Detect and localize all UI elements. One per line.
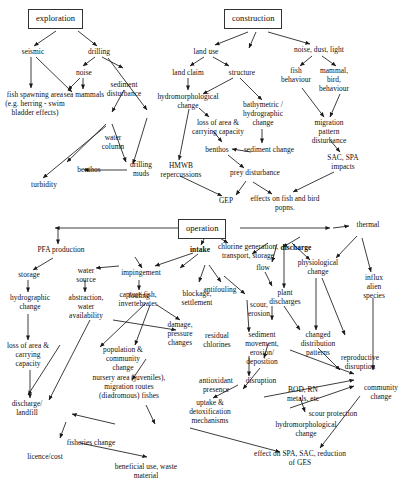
node-nursery-area-migration-routes[interactable]: nursery area (juveniles), migration rout… [88, 373, 170, 400]
node-noise[interactable]: noise [66, 68, 102, 77]
node-disruption[interactable]: disruption [241, 376, 281, 385]
node-capture-fish-invertebrates[interactable]: capture fish, invertebrates [114, 290, 162, 308]
node-scour-erosion[interactable]: scour, erosion [244, 300, 274, 318]
node-uptake-detoxification-mechanisms[interactable]: uptake & detoxification mechanisms [186, 398, 234, 425]
node-blockage-settlement[interactable]: blockage, settlement [178, 289, 216, 307]
phase-box-operation[interactable]: operation [178, 219, 226, 239]
node-prey-disturbance[interactable]: prey disturbance [227, 168, 283, 177]
node-mammal-bird-behaviour[interactable]: mammal, bird, behaviour [316, 66, 352, 93]
node-fish-behaviour[interactable]: fish behaviour [281, 66, 311, 84]
phase-box-construction[interactable]: construction [224, 9, 282, 29]
node-physiological-change[interactable]: physiological change [296, 258, 340, 276]
node-hydromorphological-change-operation[interactable]: hydromorphological change [268, 420, 344, 438]
node-structure[interactable]: structure [222, 68, 262, 77]
node-migration-pattern-disturbance[interactable]: migration pattern disturbance [307, 118, 351, 145]
node-seismic[interactable]: seismic [13, 47, 53, 56]
node-bod-rn-metals[interactable]: BOD, RN metals, etc [281, 385, 325, 403]
phase-box-exploration[interactable]: exploration [28, 9, 83, 29]
node-benthos-construction[interactable]: benthos [199, 145, 235, 154]
node-sea-mammals[interactable]: sea mammals [59, 90, 109, 99]
node-fish-spawning-area[interactable]: fish spawning area (e.g. herring - swim … [4, 90, 66, 117]
node-loss-of-area-carrying-capacity-operation[interactable]: loss of area & carrying capacity [4, 341, 52, 368]
node-flow[interactable]: flow [251, 263, 275, 272]
node-hmwb-repercussions[interactable]: HMWB repercussions [152, 161, 210, 179]
node-scour-protection[interactable]: scour protection [304, 409, 362, 418]
node-drilling[interactable]: drilling [78, 47, 120, 56]
node-damage-pressure-changes[interactable]: damage, pressure changes [161, 320, 199, 347]
node-influx-alien-species[interactable]: influx alien species [358, 273, 390, 300]
node-effects-on-fish-and-bird[interactable]: effects on fish and bird popns. [246, 194, 324, 212]
node-hydrographic-change[interactable]: hydrographic change [4, 293, 56, 311]
node-beneficial-use-waste-material[interactable]: beneficial use, waste material [104, 462, 188, 480]
node-land-claim[interactable]: land claim [165, 68, 211, 77]
node-abstraction-water-availability[interactable]: abstraction, water availability [62, 293, 110, 320]
node-noise-dust-light[interactable]: noise, dust, light [291, 45, 347, 54]
diagram-canvas: exploration construction operation seism… [0, 0, 414, 490]
node-population-community-change[interactable]: population & community change [96, 345, 150, 372]
node-hydromorphological-change-construction[interactable]: hydromorphological change [146, 92, 230, 110]
node-impingement[interactable]: impingement [116, 268, 166, 277]
node-thermal[interactable]: thermal [350, 220, 386, 229]
node-storage[interactable]: storage [10, 270, 48, 279]
node-reproductive-disruption[interactable]: reproductive disruption [338, 353, 382, 371]
node-benthos-exploration[interactable]: benthos [71, 165, 107, 174]
node-sac-spa-impacts[interactable]: SAC, SPA impacts [323, 153, 363, 171]
node-antioxidant-presence[interactable]: antioxidant presence [192, 376, 240, 394]
node-discharge-landfill[interactable]: discharge/ landfill [6, 399, 48, 417]
node-sediment-change[interactable]: sediment change [242, 145, 296, 154]
node-loss-of-area-carrying-capacity[interactable]: loss of area & carrying capacity [185, 118, 251, 136]
node-pfa-production[interactable]: PFA production [34, 245, 88, 254]
node-turbidity[interactable]: turbidity [24, 180, 64, 189]
node-water-column[interactable]: water column [96, 133, 130, 151]
node-changed-distribution-patterns[interactable]: changed distribution patterns [296, 330, 340, 357]
node-residual-chlorines[interactable]: residual chlorines [196, 331, 238, 349]
node-community-change[interactable]: community change [357, 383, 405, 401]
node-effect-on-spa-sac[interactable]: effect on SPA, SAC, reduction of GES [252, 449, 348, 467]
node-discharge[interactable]: discharge [274, 243, 318, 252]
node-fisheries-change[interactable]: fisheries change [62, 438, 120, 447]
node-land-use[interactable]: land use [186, 47, 226, 56]
node-licence-cost[interactable]: licence/cost [22, 452, 68, 461]
node-bathymetric-hydrographic-change[interactable]: bathymetric / hydrographic change [243, 100, 283, 127]
node-sediment-movement-erosion-deposition[interactable]: sediment movement, erosion/ deposition [240, 330, 284, 366]
node-water-source[interactable]: water source [71, 266, 101, 284]
node-gep[interactable]: GEP [213, 196, 239, 205]
